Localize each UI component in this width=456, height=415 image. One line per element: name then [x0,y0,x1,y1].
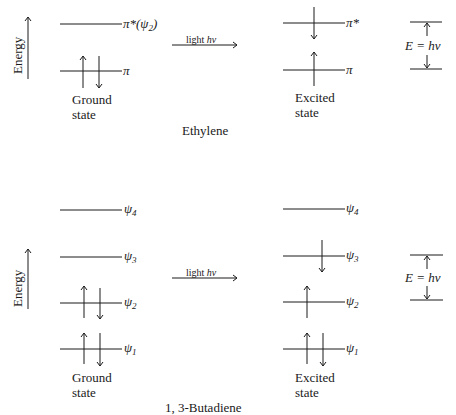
excited-psi2-label: ψ2 [346,293,359,313]
energy-axis-label: Energy [10,37,26,74]
level-symbol: ψ [346,247,354,262]
orbital-diagram [0,0,456,415]
ground-psi2-label: ψ2 [124,294,137,314]
level-symbol: ψ [124,248,132,263]
light-arrow-label: light hν [186,265,216,280]
excited-state-label-line2: state [295,385,319,400]
level-subscript: 3 [354,254,359,264]
level-symbol: ψ [346,200,354,215]
excited-state-label-line1: Excited [295,370,335,385]
energy-axis-label: Energy [10,270,26,307]
ground-state-label-line2: state [72,107,96,122]
excited-state-label-line2: state [295,105,319,120]
level-symbol: ψ [124,340,132,355]
ground-psi3-label: ψ3 [124,248,137,268]
ground-state-label-line1: Ground [72,370,112,385]
ground-pistar-label: π*(ψ2) [123,16,157,36]
ground-psi1-label: ψ1 [124,340,137,360]
level-tail: ) [153,16,157,31]
gap-energy-label: E = hν [405,38,440,53]
ground-state-label-line1: Ground [72,92,112,107]
level-symbol: ψ [124,201,132,216]
diagram-title-ethylene: Ethylene [182,123,228,138]
excited-state-label-line1: Excited [295,90,335,105]
level-subscript: 1 [132,347,137,357]
level-subscript: 2 [132,301,137,311]
level-subscript: 4 [354,207,359,217]
excited-pistar-label: π* [346,15,359,30]
excited-psi3-label: ψ3 [346,247,359,267]
excited-psi1-label: ψ1 [346,340,359,360]
ground-pi-label: π [123,63,130,78]
level-subscript: 2 [354,300,359,310]
light-arrow-label: light hν [186,32,216,47]
gap-energy-label: E = hν [405,270,440,285]
excited-pi-label: π [346,62,353,77]
level-subscript: 1 [354,347,359,357]
excited-psi4-label: ψ4 [346,200,359,220]
level-subscript: 4 [132,208,137,218]
diagram-title-butadiene: 1, 3-Butadiene [165,400,242,415]
level-symbol: ψ [346,293,354,308]
level-subscript: 3 [132,255,137,265]
ground-state-label-line2: state [72,385,96,400]
level-symbol: ψ [124,294,132,309]
level-symbol: π*(ψ [123,16,148,31]
ground-psi4-label: ψ4 [124,201,137,221]
level-symbol: ψ [346,340,354,355]
